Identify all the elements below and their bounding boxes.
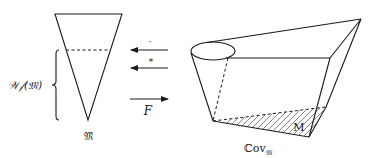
brace-label: 𝒲𝒻(𝔐) <box>8 79 42 92</box>
edge-top <box>207 19 361 43</box>
arrow-dot: · <box>131 36 168 50</box>
arrow-star: * <box>131 57 168 68</box>
arrow-star-label: * <box>149 57 154 67</box>
hatched-region <box>200 100 352 150</box>
edge-box-top <box>330 19 361 58</box>
edge-front-vertical <box>309 58 330 137</box>
inverted-triangle <box>55 14 122 120</box>
cone-left-side <box>191 53 213 121</box>
arrow-dot-label: · <box>148 36 151 47</box>
left-cone-figure <box>55 14 122 120</box>
curly-brace <box>52 50 59 120</box>
cov-text: ℂov <box>244 142 266 155</box>
arrow-F-label: F <box>143 104 153 118</box>
cone-hidden-side <box>213 58 228 121</box>
left-figure-label: 𝔐 <box>84 131 93 142</box>
cov-subscript: 𝔐 <box>266 149 273 157</box>
right-figure-label: ℂov𝔐 <box>244 142 273 157</box>
arrow-F: F <box>130 99 168 118</box>
base-M-label: M <box>293 121 304 134</box>
cone-top-ellipse <box>191 42 235 60</box>
base-right-edge <box>309 107 326 137</box>
diagram-canvas: 𝒲𝒻(𝔐) 𝔐 · * F <box>0 0 372 158</box>
edge-back-vertical <box>326 19 361 107</box>
right-cone-figure: M ℂov𝔐 <box>191 19 361 157</box>
